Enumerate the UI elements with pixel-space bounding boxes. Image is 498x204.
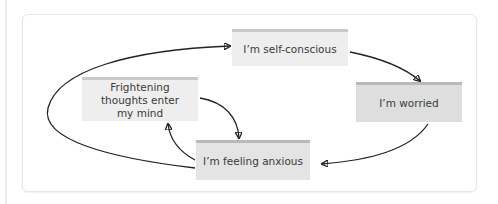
node-label: I’m feeling anxious — [203, 155, 303, 168]
node-label: I’m worried — [379, 97, 439, 110]
node-self-conscious: I’m self-conscious — [232, 29, 348, 66]
page-side-rule — [5, 0, 7, 204]
node-label: I’m self-conscious — [243, 43, 336, 56]
node-frightening-thoughts: Frightening thoughts enter my mind — [82, 77, 198, 121]
node-worried: I’m worried — [356, 82, 462, 122]
node-feeling-anxious: I’m feeling anxious — [196, 140, 310, 180]
node-label: Frightening thoughts enter my mind — [92, 81, 188, 120]
